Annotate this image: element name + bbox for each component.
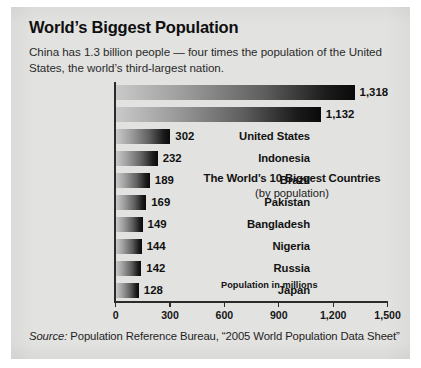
x-tick-label: 900 xyxy=(270,309,288,321)
bar xyxy=(116,129,171,144)
bar-value-label: 1,132 xyxy=(326,108,355,120)
inner-caption-title: The World’s 10 Biggest Countries xyxy=(197,172,387,184)
bar-value-label: 169 xyxy=(151,196,170,208)
bar xyxy=(116,107,321,122)
page-title: World’s Biggest Population xyxy=(29,18,238,37)
x-axis-title: Population in millions xyxy=(221,280,318,290)
bar-row: Bangladesh149 xyxy=(11,214,410,236)
page-subtitle: China has 1.3 billion people — four time… xyxy=(29,44,397,75)
bar-value-label: 142 xyxy=(146,262,165,274)
x-tick xyxy=(169,302,170,307)
bar-value-label: 1,318 xyxy=(360,86,389,98)
bar xyxy=(116,151,158,166)
bar-category-label: Bangladesh xyxy=(247,218,310,230)
bar-row: United States302 xyxy=(11,126,410,148)
bar-value-label: 232 xyxy=(163,152,182,164)
bar-row: Russia142 xyxy=(11,258,410,280)
bar-chart: 03006009001,2001,500 China1,318India1,13… xyxy=(11,78,410,308)
x-tick-label: 0 xyxy=(113,309,119,321)
x-tick xyxy=(333,302,334,307)
bar xyxy=(116,239,142,254)
bar-row: Nigeria144 xyxy=(11,236,410,258)
x-tick xyxy=(278,302,279,307)
bar-value-label: 189 xyxy=(155,174,174,186)
inner-caption-subtitle: (by population) xyxy=(197,187,387,199)
bar-value-label: 302 xyxy=(175,130,194,142)
source-label: Source: xyxy=(29,330,67,342)
bar xyxy=(116,85,355,100)
x-tick xyxy=(115,302,116,307)
x-tick-label: 600 xyxy=(216,309,234,321)
source-note: Source: Population Reference Bureau, “20… xyxy=(29,330,400,342)
x-tick xyxy=(387,302,388,307)
bar-row: China1,318 xyxy=(11,82,410,104)
bar-category-label: Nigeria xyxy=(272,240,310,252)
bar xyxy=(116,261,142,276)
bar xyxy=(116,173,150,188)
bar xyxy=(116,283,139,298)
bar-category-label: United States xyxy=(239,130,310,142)
x-tick-label: 1,200 xyxy=(320,309,347,321)
x-tick-label: 300 xyxy=(161,309,179,321)
inner-caption: The World’s 10 Biggest Countries (by pop… xyxy=(197,172,387,199)
bar xyxy=(116,195,147,210)
bar-row: Japan128 xyxy=(11,280,410,302)
bar-value-label: 149 xyxy=(148,218,167,230)
bar xyxy=(116,217,143,232)
bar-value-label: 144 xyxy=(147,240,166,252)
bar-row: Indonesia232 xyxy=(11,148,410,170)
chart-page: World’s Biggest Population China has 1.3… xyxy=(0,0,421,368)
bar-row: India1,132 xyxy=(11,104,410,126)
bar-category-label: Russia xyxy=(274,262,310,274)
bar-category-label: Indonesia xyxy=(258,152,310,164)
x-tick xyxy=(224,302,225,307)
source-text: Population Reference Bureau, “2005 World… xyxy=(67,330,400,342)
bar-value-label: 128 xyxy=(144,284,163,296)
x-tick-label: 1,500 xyxy=(374,309,401,321)
infographic-panel: World’s Biggest Population China has 1.3… xyxy=(11,7,410,359)
